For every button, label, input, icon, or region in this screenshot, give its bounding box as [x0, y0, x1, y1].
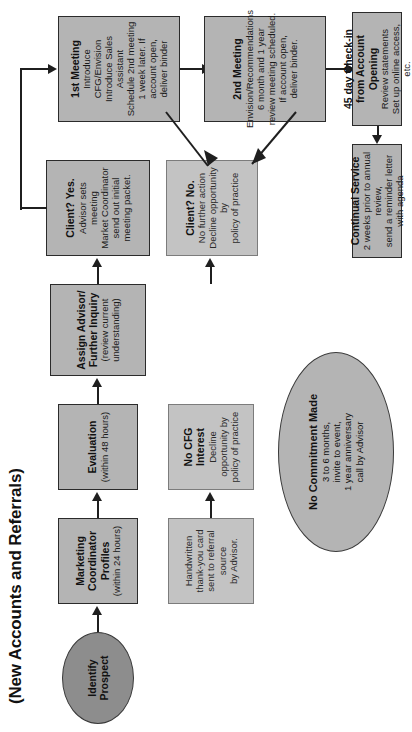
arrowhead-checkin-to-continual [372, 135, 382, 144]
node-client-yes[interactable]: Client? Yes. Advisor sets meeting Market… [46, 160, 150, 256]
connector-second-meeting-to-no-commitment [200, 102, 360, 402]
node-no-commitment-made-heading: No Commitment Made [307, 394, 320, 510]
node-client-yes-heading: Client? Yes. [64, 178, 76, 237]
node-identify-prospect[interactable]: Identify Prospect [62, 632, 134, 724]
node-thank-you-card-body: Handwritten thank-you card sent to refer… [183, 523, 238, 599]
node-marketing-coordinator-heading: Marketing Coordinator Profiles [74, 523, 111, 599]
connector-marketing-to-evaluation [97, 500, 99, 518]
diagram-title: (New Accounts and Referrals) [6, 468, 26, 704]
arrowhead-assign-to-client-yes [92, 258, 102, 267]
node-no-cfg-interest[interactable]: No CFG Interest Decline opportunity by p… [168, 404, 254, 490]
node-assign-advisor-heading: Assign Advisor/ Further Inquiry [75, 290, 99, 370]
connector-thankyou-to-nocfg [210, 500, 212, 518]
arrowhead-prospect-to-marketing [92, 606, 102, 615]
node-client-yes-body: Advisor sets meeting Market Coordinator … [77, 165, 132, 251]
node-evaluation-body: (within 48 hours) [99, 412, 110, 482]
connector-prospect-to-marketing [97, 614, 99, 632]
node-thank-you-card[interactable]: Handwritten thank-you card sent to refer… [168, 518, 254, 604]
connector-clientyes-across [20, 68, 22, 210]
node-marketing-coordinator[interactable]: Marketing Coordinator Profiles (within 2… [58, 518, 138, 604]
node-first-meeting-heading: 1st Meeting [69, 40, 81, 98]
node-45-day-checkin-body: Review statements Set up online access, … [379, 17, 412, 121]
connector-clientyes-down [20, 68, 50, 70]
connector-clientyes-up [20, 207, 47, 209]
arrowhead-evaluation-to-assign [92, 378, 102, 387]
connector-first-to-second-meeting [180, 68, 204, 70]
node-assign-advisor[interactable]: Assign Advisor/ Further Inquiry (review … [50, 284, 146, 376]
node-evaluation-heading: Evaluation [86, 420, 98, 473]
node-marketing-coordinator-body: (within 24 hours) [111, 526, 122, 596]
node-no-cfg-interest-heading: No CFG Interest [182, 409, 206, 485]
arrowhead-clientyes-to-first-meeting [48, 64, 57, 74]
arrowhead-marketing-to-evaluation [92, 492, 102, 501]
arrowhead-thankyou-to-nocfg [205, 492, 215, 501]
node-assign-advisor-body: (review current understanding) [99, 289, 121, 371]
node-continual-service-body: 2 weeks prior to annual review, send a r… [361, 149, 405, 253]
node-identify-prospect-heading: Identify Prospect [86, 637, 111, 719]
node-evaluation[interactable]: Evaluation (within 48 hours) [58, 404, 138, 490]
node-no-commitment-made-body: 3 to 6 months, invite to event, 1 year a… [320, 413, 365, 491]
connector-evaluation-to-assign [97, 386, 99, 404]
node-second-meeting-heading: 2nd Meeting [231, 38, 243, 99]
connector-assign-to-client-yes [97, 266, 99, 284]
node-no-cfg-interest-body: Decline opportunity by policy of practic… [207, 409, 240, 485]
